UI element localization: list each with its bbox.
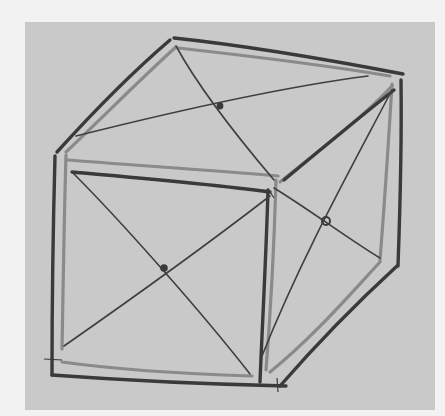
front-face-center-dot	[160, 264, 168, 272]
top-face-center-dot	[217, 103, 224, 110]
corner-ticks	[44, 192, 278, 392]
cube-outer-edges	[52, 38, 403, 386]
cube-sketch	[0, 0, 445, 416]
